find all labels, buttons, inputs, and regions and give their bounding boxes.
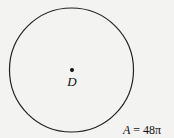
center-label: D xyxy=(66,74,77,89)
center-point xyxy=(70,68,74,72)
area-label: A = 48π xyxy=(122,123,161,137)
circle-diagram: D A = 48π xyxy=(0,0,174,138)
area-value: = 48π xyxy=(130,123,161,137)
